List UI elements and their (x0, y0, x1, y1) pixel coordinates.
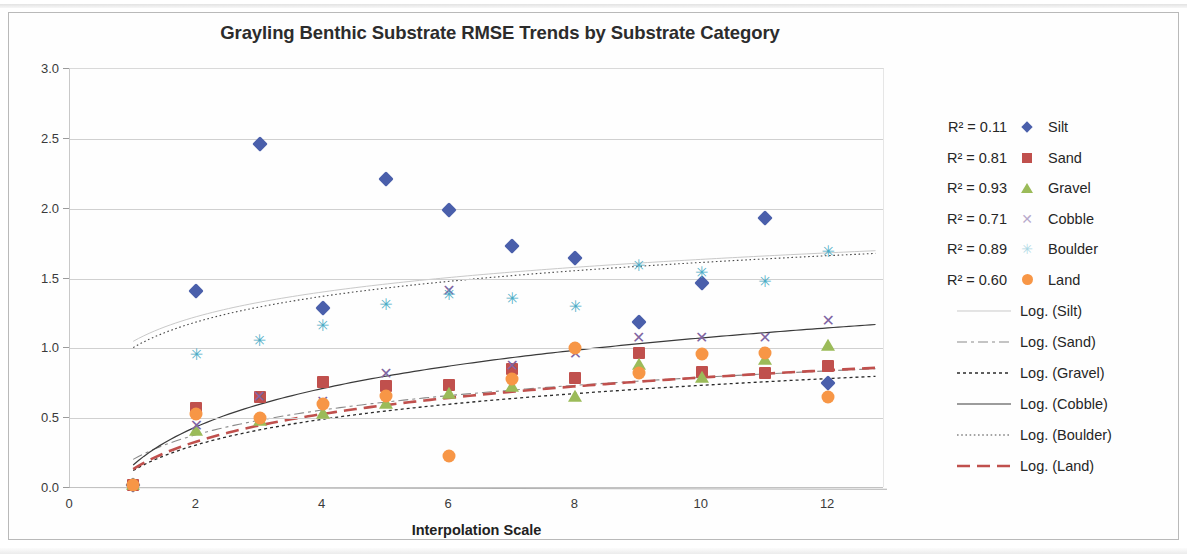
legend-item-silt[interactable]: R² = 0.11Silt (930, 112, 1180, 143)
y-tick-label: 3.0 (13, 61, 59, 76)
data-point-gravel (821, 338, 835, 350)
x-tick-label: 0 (49, 496, 89, 511)
legend-trend-item-cobble[interactable]: Log. (Cobble) (930, 388, 1180, 419)
legend-trend-item-silt[interactable]: Log. (Silt) (930, 295, 1180, 326)
data-point-boulder: ✳ (252, 332, 267, 347)
legend-line-swatch (930, 368, 1016, 378)
data-point-boulder: ✳ (694, 264, 709, 279)
legend-series-label: Land (1040, 272, 1080, 288)
data-point-cobble: ✕ (694, 330, 709, 345)
data-point-land (632, 367, 645, 380)
x-tick-label: 10 (681, 496, 721, 511)
legend-r2-value: R² = 0.81 (930, 150, 1014, 166)
legend-trend-label: Log. (Land) (1016, 458, 1094, 474)
legend-series-label: Boulder (1040, 241, 1098, 257)
legend-line-swatch (930, 337, 1016, 347)
x-axis-title: Interpolation Scale (69, 522, 884, 538)
data-point-cobble: ✕ (505, 358, 520, 373)
data-point-sand (317, 376, 329, 388)
x-tick-label: 8 (554, 496, 594, 511)
legend-line-swatch (930, 306, 1016, 316)
gridline-baseline (70, 487, 883, 488)
data-point-land (443, 449, 456, 462)
y-tick-label: 1.0 (13, 340, 59, 355)
legend-series-label: Cobble (1040, 211, 1094, 227)
legend-r2-value: R² = 0.93 (930, 180, 1014, 196)
data-point-boulder: ✳ (757, 274, 772, 289)
data-point-sand (633, 347, 645, 359)
legend-trend-label: Log. (Gravel) (1016, 365, 1105, 381)
legend-item-land[interactable]: R² = 0.60Land (930, 265, 1180, 296)
data-point-boulder: ✳ (442, 286, 457, 301)
data-point-gravel (568, 390, 582, 402)
legend-trend-item-land[interactable]: Log. (Land) (930, 450, 1180, 481)
legend-line-swatch (930, 461, 1016, 471)
legend-r2-value: R² = 0.89 (930, 241, 1014, 257)
legend-line-swatch (930, 399, 1016, 409)
data-point-land (822, 391, 835, 404)
y-tick-mark (63, 278, 69, 279)
legend-item-cobble[interactable]: R² = 0.71✕Cobble (930, 204, 1180, 235)
data-point-cobble: ✕ (757, 330, 772, 345)
data-point-land (569, 342, 582, 355)
legend-marker-boulder-icon: ✳ (1014, 241, 1040, 257)
data-point-land (190, 407, 203, 420)
data-point-gravel (442, 387, 456, 399)
data-point-sand (759, 367, 771, 379)
data-point-boulder: ✳ (505, 291, 520, 306)
y-tick-label: 2.0 (13, 200, 59, 215)
y-tick-label: 0.0 (13, 480, 59, 495)
x-tick-label: 4 (302, 496, 342, 511)
legend-marker-cobble-icon: ✕ (1014, 211, 1040, 227)
legend-trend-item-boulder[interactable]: Log. (Boulder) (930, 419, 1180, 450)
plot-area: ✕✕✕✕✕✕✕✕✕✕✕✕✳✳✳✳✳✳✳✳✳✳✳✳ (69, 68, 884, 487)
legend-marker-silt-icon (1014, 119, 1040, 135)
chart-page: Grayling Benthic Substrate RMSE Trends b… (0, 0, 1187, 558)
x-tick-label: 12 (807, 496, 847, 511)
data-point-land (695, 347, 708, 360)
legend-series-label: Gravel (1040, 180, 1091, 196)
x-tick-label: 2 (175, 496, 215, 511)
legend-marker-sand-icon (1014, 150, 1040, 166)
legend-series-label: Silt (1040, 119, 1068, 135)
data-point-boulder: ✳ (315, 317, 330, 332)
y-tick-mark (63, 487, 69, 488)
data-point-boulder: ✳ (189, 346, 204, 361)
data-point-cobble: ✕ (378, 366, 393, 381)
data-point-boulder: ✳ (631, 257, 646, 272)
data-point-sand (569, 372, 581, 384)
chart-title: Grayling Benthic Substrate RMSE Trends b… (70, 22, 930, 44)
y-tick-mark (63, 138, 69, 139)
y-tick-label: 1.5 (13, 270, 59, 285)
data-point-land (316, 398, 329, 411)
legend-r2-value: R² = 0.11 (930, 119, 1014, 135)
data-point-boulder: ✳ (378, 296, 393, 311)
data-point-sand (822, 360, 834, 372)
data-point-land (758, 346, 771, 359)
legend-item-boulder[interactable]: R² = 0.89✳Boulder (930, 234, 1180, 265)
legend-trend-label: Log. (Boulder) (1016, 427, 1112, 443)
data-point-boulder: ✳ (568, 299, 583, 314)
data-point-land (253, 412, 266, 425)
legend-marker-land-icon (1014, 272, 1040, 288)
data-point-land (379, 389, 392, 402)
legend-series-label: Sand (1040, 150, 1082, 166)
y-tick-label: 2.5 (13, 130, 59, 145)
legend-line-swatch (930, 430, 1016, 440)
data-point-land (127, 479, 140, 492)
legend-item-sand[interactable]: R² = 0.81Sand (930, 143, 1180, 174)
y-tick-mark (63, 208, 69, 209)
data-point-cobble: ✕ (631, 330, 646, 345)
legend-trend-item-sand[interactable]: Log. (Sand) (930, 326, 1180, 357)
y-tick-mark (63, 68, 69, 69)
data-point-boulder: ✳ (821, 243, 836, 258)
data-point-land (506, 373, 519, 386)
scan-artifact-bottom (0, 548, 1187, 554)
data-point-cobble: ✕ (821, 313, 836, 328)
gridline (70, 139, 883, 140)
y-tick-mark (63, 347, 69, 348)
legend-trend-item-gravel[interactable]: Log. (Gravel) (930, 357, 1180, 388)
legend-r2-value: R² = 0.60 (930, 272, 1014, 288)
y-tick-mark (63, 417, 69, 418)
legend-item-gravel[interactable]: R² = 0.93Gravel (930, 173, 1180, 204)
